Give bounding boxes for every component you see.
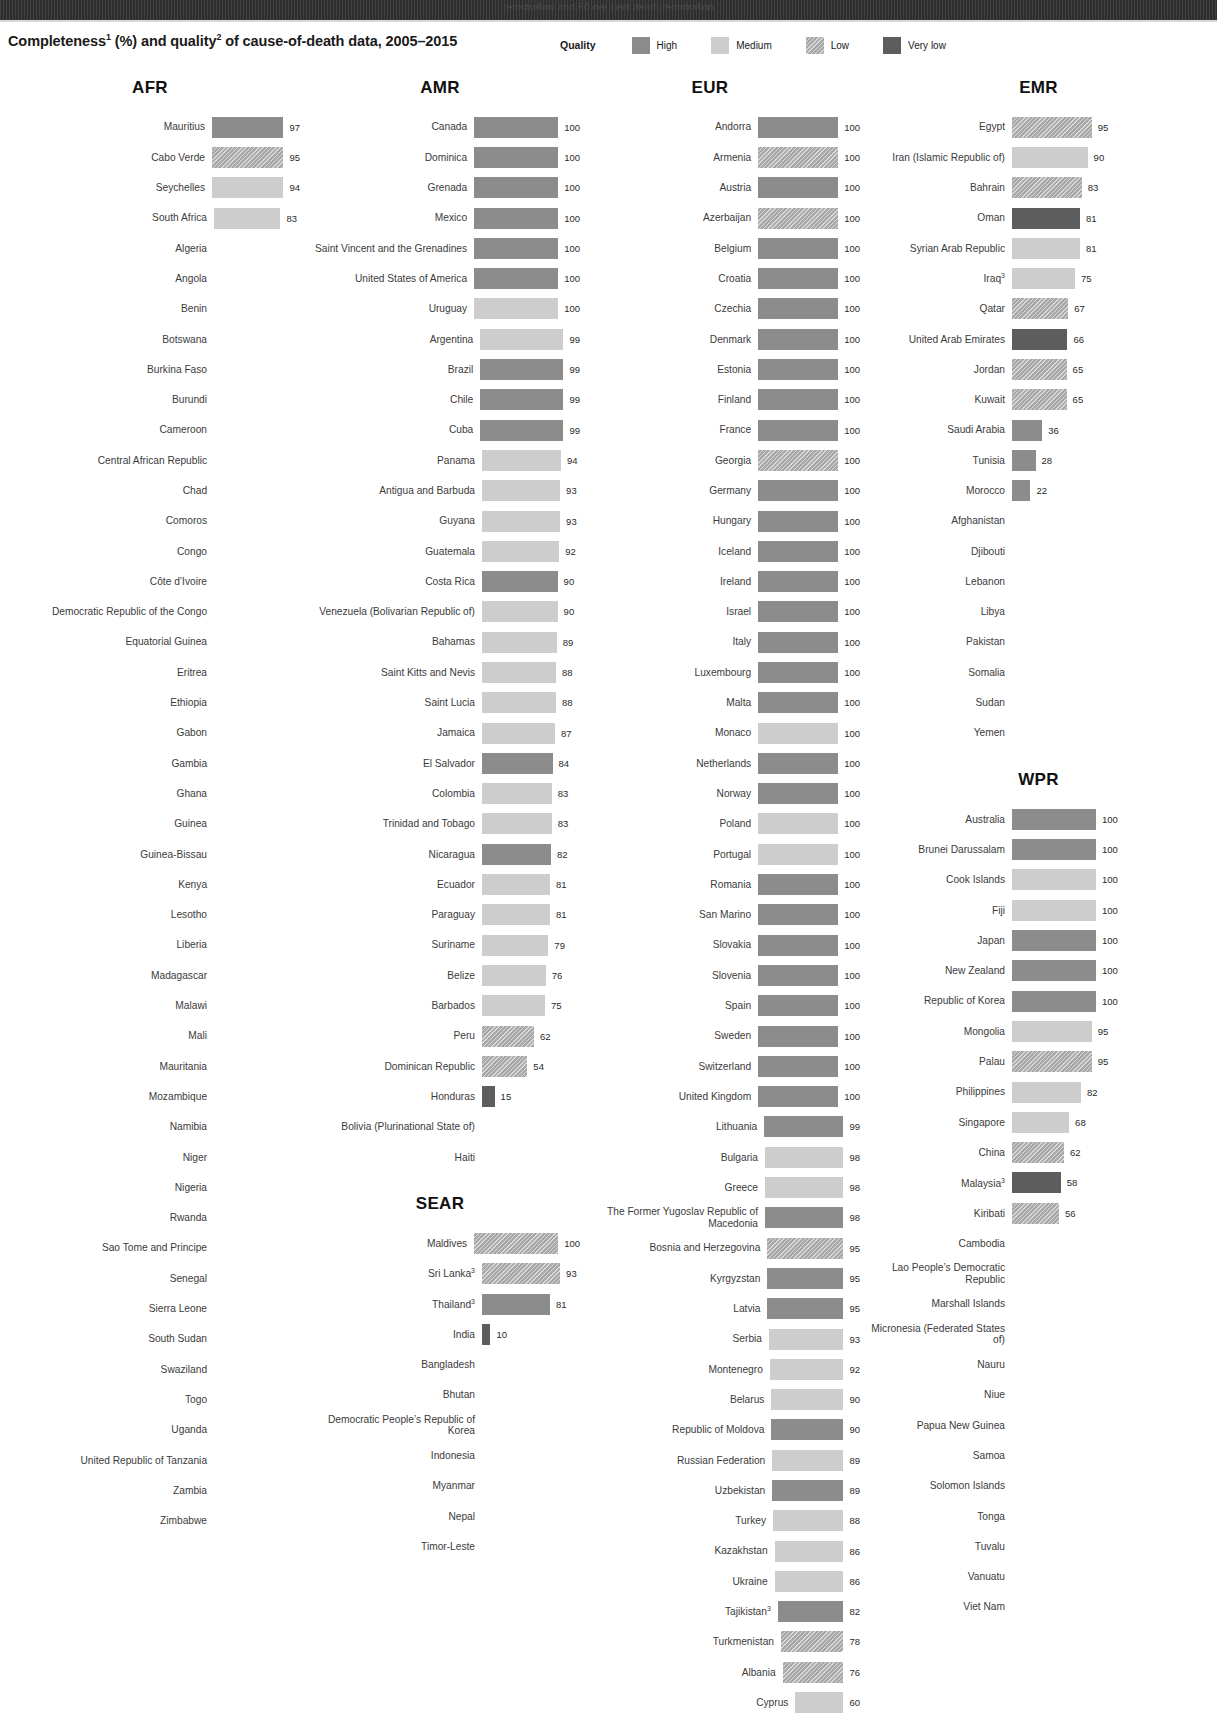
country-row[interactable]: Lithuania99 bbox=[560, 1112, 860, 1142]
country-row[interactable]: Pakistan bbox=[860, 627, 1217, 657]
country-row[interactable]: Norway100 bbox=[560, 779, 860, 809]
country-row[interactable]: Malawi bbox=[0, 991, 300, 1021]
country-row[interactable]: Honduras15 bbox=[300, 1082, 580, 1112]
completeness-bar[interactable] bbox=[1012, 839, 1096, 860]
country-row[interactable]: United Arab Emirates66 bbox=[860, 324, 1217, 354]
country-row[interactable]: Portugal100 bbox=[560, 839, 860, 869]
country-row[interactable]: Cabo Verde95 bbox=[0, 142, 300, 172]
completeness-bar[interactable] bbox=[758, 723, 838, 744]
completeness-bar[interactable] bbox=[758, 147, 838, 168]
country-row[interactable]: Somalia bbox=[860, 657, 1217, 687]
country-row[interactable]: Iraq375 bbox=[860, 263, 1217, 293]
completeness-bar[interactable] bbox=[1012, 117, 1092, 138]
completeness-bar[interactable] bbox=[795, 1692, 843, 1713]
country-row[interactable]: Niue bbox=[860, 1380, 1217, 1410]
country-row[interactable]: United Kingdom100 bbox=[560, 1082, 860, 1112]
country-row[interactable]: Malta100 bbox=[560, 688, 860, 718]
completeness-bar[interactable] bbox=[758, 753, 838, 774]
country-row[interactable]: San Marino100 bbox=[560, 900, 860, 930]
country-row[interactable]: Finland100 bbox=[560, 385, 860, 415]
completeness-bar[interactable] bbox=[212, 147, 283, 168]
completeness-bar[interactable] bbox=[482, 1294, 550, 1315]
country-row[interactable]: Luxembourg100 bbox=[560, 657, 860, 687]
country-row[interactable]: Chad bbox=[0, 476, 300, 506]
country-row[interactable]: Argentina99 bbox=[300, 324, 580, 354]
country-row[interactable]: Sao Tome and Principe bbox=[0, 1233, 300, 1263]
completeness-bar[interactable] bbox=[758, 359, 838, 380]
country-row[interactable]: Equatorial Guinea bbox=[0, 627, 300, 657]
completeness-bar[interactable] bbox=[482, 601, 558, 622]
country-row[interactable]: Thailand381 bbox=[300, 1289, 580, 1319]
completeness-bar[interactable] bbox=[783, 1662, 844, 1683]
country-row[interactable]: Brunei Darussalam100 bbox=[860, 835, 1217, 865]
country-row[interactable]: Maldives100 bbox=[300, 1228, 580, 1258]
country-row[interactable]: Morocco22 bbox=[860, 476, 1217, 506]
completeness-bar[interactable] bbox=[482, 692, 556, 713]
country-row[interactable]: Dominica100 bbox=[300, 142, 580, 172]
country-row[interactable]: South Africa83 bbox=[0, 203, 300, 233]
completeness-bar[interactable] bbox=[758, 965, 838, 986]
country-row[interactable]: Tajikistan382 bbox=[560, 1597, 860, 1627]
completeness-bar[interactable] bbox=[474, 208, 558, 229]
legend-item-low[interactable]: Low bbox=[806, 37, 849, 54]
completeness-bar[interactable] bbox=[482, 965, 546, 986]
country-row[interactable]: Rwanda bbox=[0, 1203, 300, 1233]
completeness-bar[interactable] bbox=[482, 1056, 527, 1077]
completeness-bar[interactable] bbox=[758, 632, 838, 653]
country-row[interactable]: Côte d’Ivoire bbox=[0, 566, 300, 596]
completeness-bar[interactable] bbox=[758, 662, 838, 683]
completeness-bar[interactable] bbox=[482, 480, 560, 501]
country-row[interactable]: Saint Kitts and Nevis88 bbox=[300, 657, 580, 687]
completeness-bar[interactable] bbox=[1012, 1172, 1061, 1193]
country-row[interactable]: Belize76 bbox=[300, 960, 580, 990]
completeness-bar[interactable] bbox=[758, 1056, 838, 1077]
country-row[interactable]: Sweden100 bbox=[560, 1021, 860, 1051]
completeness-bar[interactable] bbox=[765, 1177, 843, 1198]
completeness-bar[interactable] bbox=[1012, 1082, 1081, 1103]
country-row[interactable]: Suriname79 bbox=[300, 930, 580, 960]
completeness-bar[interactable] bbox=[758, 298, 838, 319]
country-row[interactable]: Costa Rica90 bbox=[300, 566, 580, 596]
completeness-bar[interactable] bbox=[771, 1389, 843, 1410]
country-row[interactable]: Iceland100 bbox=[560, 536, 860, 566]
country-row[interactable]: Mauritania bbox=[0, 1051, 300, 1081]
completeness-bar[interactable] bbox=[758, 995, 838, 1016]
completeness-bar[interactable] bbox=[1012, 1051, 1092, 1072]
country-row[interactable]: Kazakhstan86 bbox=[560, 1536, 860, 1566]
completeness-bar[interactable] bbox=[758, 541, 838, 562]
country-row[interactable]: Saint Lucia88 bbox=[300, 688, 580, 718]
completeness-bar[interactable] bbox=[482, 1324, 490, 1345]
country-row[interactable]: Jamaica87 bbox=[300, 718, 580, 748]
country-row[interactable]: Guyana93 bbox=[300, 506, 580, 536]
country-row[interactable]: Palau95 bbox=[860, 1047, 1217, 1077]
completeness-bar[interactable] bbox=[474, 238, 558, 259]
completeness-bar[interactable] bbox=[758, 783, 838, 804]
completeness-bar[interactable] bbox=[758, 420, 838, 441]
country-row[interactable]: Cuba99 bbox=[300, 415, 580, 445]
country-row[interactable]: Swaziland bbox=[0, 1354, 300, 1384]
completeness-bar[interactable] bbox=[1012, 298, 1068, 319]
country-row[interactable]: Australia100 bbox=[860, 804, 1217, 834]
country-row[interactable]: Sri Lanka393 bbox=[300, 1259, 580, 1289]
country-row[interactable]: Egypt95 bbox=[860, 112, 1217, 142]
country-row[interactable]: Senegal bbox=[0, 1263, 300, 1293]
completeness-bar[interactable] bbox=[1012, 809, 1096, 830]
country-row[interactable]: Russian Federation89 bbox=[560, 1445, 860, 1475]
completeness-bar[interactable] bbox=[482, 844, 551, 865]
completeness-bar[interactable] bbox=[482, 511, 560, 532]
country-row[interactable]: The Former Yugoslav Republic of Macedoni… bbox=[560, 1203, 860, 1233]
completeness-bar[interactable] bbox=[775, 1541, 844, 1562]
country-row[interactable]: Ireland100 bbox=[560, 566, 860, 596]
completeness-bar[interactable] bbox=[1012, 359, 1067, 380]
completeness-bar[interactable] bbox=[480, 389, 563, 410]
completeness-bar[interactable] bbox=[758, 874, 838, 895]
completeness-bar[interactable] bbox=[764, 1116, 843, 1137]
completeness-bar[interactable] bbox=[758, 177, 838, 198]
country-row[interactable]: Bahamas89 bbox=[300, 627, 580, 657]
country-row[interactable]: Yemen bbox=[860, 718, 1217, 748]
country-row[interactable]: Kenya bbox=[0, 869, 300, 899]
country-row[interactable]: Uganda bbox=[0, 1415, 300, 1445]
completeness-bar[interactable] bbox=[773, 1510, 843, 1531]
country-row[interactable]: Bosnia and Herzegovina95 bbox=[560, 1233, 860, 1263]
completeness-bar[interactable] bbox=[1012, 991, 1096, 1012]
